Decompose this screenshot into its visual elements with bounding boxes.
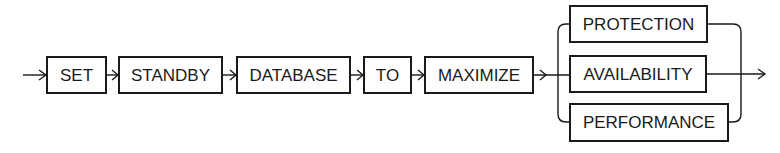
keyword-label: SET [60,66,93,85]
keyword-label: DATABASE [249,66,337,85]
keyword-to: TO [364,57,411,93]
option-availability: AVAILABILITY [570,56,706,92]
keyword-label: TO [376,66,399,85]
keyword-label: MAXIMIZE [438,66,520,85]
syntax-diagram: SET STANDBY DATABASE TO MAXIMIZE PROTECT… [0,0,780,153]
option-label: PROTECTION [583,15,694,34]
keyword-set: SET [47,57,106,93]
option-label: PERFORMANCE [583,113,715,132]
option-performance: PERFORMANCE [570,104,728,141]
option-label: AVAILABILITY [584,65,693,84]
keyword-label: STANDBY [131,66,210,85]
keyword-standby: STANDBY [119,57,222,93]
option-protection: PROTECTION [570,6,707,42]
keyword-database: DATABASE [237,57,350,93]
branch-left-rail [558,24,570,122]
keyword-maximize: MAXIMIZE [425,57,533,93]
